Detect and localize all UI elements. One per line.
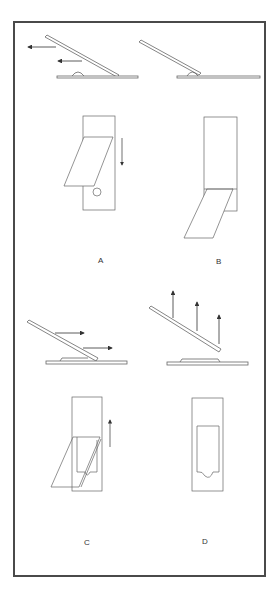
panel-b-side-view [139, 40, 260, 78]
panel-b-top-view [184, 117, 237, 238]
panel-c-top-view [51, 397, 110, 491]
panel-label-d: D [202, 537, 208, 546]
panel-a-side-view [28, 35, 138, 78]
diagram-canvas: A B C D [0, 0, 277, 598]
panel-label-c: C [84, 538, 90, 547]
panel-label-b: B [216, 257, 221, 266]
panel-d-side-view [149, 291, 248, 365]
panel-label-a: A [98, 256, 104, 265]
panel-c-side-view [27, 320, 127, 364]
panel-d-top-view [192, 398, 223, 491]
panel-a-top-view [64, 116, 122, 210]
